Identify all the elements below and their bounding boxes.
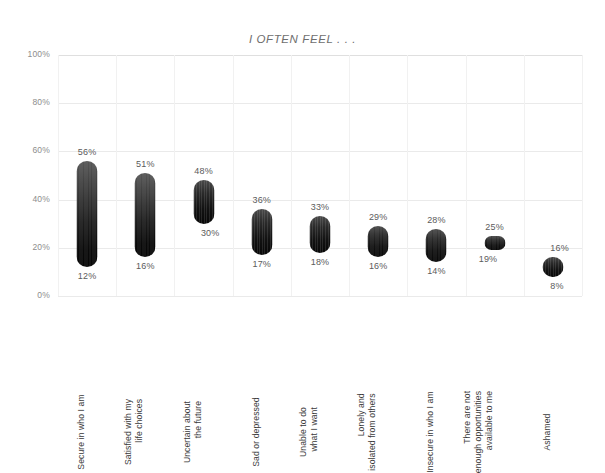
gridline-horizontal [58, 296, 582, 297]
y-axis-tick-label: 0% [0, 290, 50, 300]
bar-group[interactable]: 29%16% [349, 55, 407, 296]
y-axis-tick-label: 100% [0, 49, 50, 59]
x-axis-label-line: Unable to do [298, 407, 309, 457]
x-axis-label-slot: Lonely andisolated from others [349, 300, 407, 436]
gridline-vertical [582, 55, 583, 296]
y-axis-tick-label: 20% [0, 242, 50, 252]
x-axis-label-line: Insecure in who I am [425, 391, 436, 472]
x-axis-label-slot: Uncertain aboutthe future [174, 300, 232, 436]
x-axis-category-label: Unable to dowhat I want [298, 407, 320, 457]
y-axis-tick-label: 40% [0, 194, 50, 204]
x-axis-label-line: There are not [462, 391, 473, 473]
bar-group[interactable]: 33%18% [291, 55, 349, 296]
plot-area: 56%12%51%16%48%30%36%17%33%18%29%16%28%1… [58, 55, 582, 296]
bar-value-label-low: 12% [55, 271, 119, 281]
x-axis-category-label: Lonely andisolated from others [356, 393, 378, 470]
x-axis-label-slot: Satisfied with mylife choices [116, 300, 174, 436]
x-axis-category-label: Insecure in who I am [425, 391, 436, 472]
x-axis-label-line: Uncertain about [182, 401, 193, 463]
range-bar[interactable] [251, 209, 272, 255]
bar-value-label-high: 25% [463, 222, 527, 232]
bar-group[interactable]: 48%30% [174, 55, 232, 296]
x-axis-label-slot: Insecure in who I am [407, 300, 465, 436]
bar-group[interactable]: 25%19% [466, 55, 524, 296]
x-axis-label-line: what I want [309, 407, 320, 457]
bar-group[interactable]: 56%12% [58, 55, 116, 296]
bar-group[interactable]: 16%8% [524, 55, 582, 296]
x-axis-label-slot: Unable to dowhat I want [291, 300, 349, 436]
x-axis-label-line: Sad or depressed [251, 397, 262, 466]
x-axis-label-slot: Ashamed [524, 300, 582, 436]
y-axis-tick-label: 60% [0, 145, 50, 155]
bar-value-label-low: 18% [288, 257, 352, 267]
x-axis-category-label: Satisfied with mylife choices [123, 399, 145, 465]
bar-value-label-low: 19% [453, 254, 497, 264]
bar-group[interactable]: 36%17% [233, 55, 291, 296]
range-bar[interactable] [135, 173, 156, 257]
bar-value-label-high: 28% [404, 215, 468, 225]
bar-value-label-low: 17% [230, 259, 294, 269]
x-axis-category-label: Sad or depressed [251, 397, 262, 466]
x-axis-label-line: life choices [134, 399, 145, 465]
bar-value-label-high: 36% [230, 195, 294, 205]
range-bar[interactable] [309, 216, 330, 252]
range-bar[interactable] [542, 257, 563, 276]
x-axis-label-slot: Sad or depressed [233, 300, 291, 436]
bar-value-label-high: 56% [55, 147, 119, 157]
bar-value-label-high: 16% [550, 243, 594, 253]
x-axis-label-line: isolated from others [367, 393, 378, 470]
x-axis-label-slot: There are notenough opportunitiesavailab… [466, 300, 524, 436]
bar-value-label-low: 16% [113, 261, 177, 271]
x-axis-label-line: the future [193, 401, 204, 463]
range-bar[interactable] [484, 236, 505, 250]
x-axis-category-label: Secure in who I am [76, 394, 87, 469]
x-axis-category-label: There are notenough opportunitiesavailab… [462, 391, 495, 473]
x-axis-label-line: Ashamed [542, 413, 553, 450]
range-bar[interactable] [368, 226, 389, 257]
bar-value-label-high: 51% [113, 159, 177, 169]
x-axis-label-line: enough opportunities [473, 391, 484, 473]
x-axis-label-line: Satisfied with my [123, 399, 134, 465]
chart-title: I OFTEN FEEL . . . [0, 33, 605, 45]
bar-value-label-high: 48% [172, 166, 236, 176]
x-axis-label-line: available to me [484, 391, 495, 473]
bar-value-label-low: 16% [346, 261, 410, 271]
range-bar[interactable] [426, 229, 447, 263]
bar-value-label-high: 29% [346, 212, 410, 222]
bar-value-label-low: 8% [550, 281, 594, 291]
x-axis-category-label: Ashamed [542, 413, 553, 450]
range-bar[interactable] [77, 161, 98, 267]
bar-value-label-high: 33% [288, 202, 352, 212]
bar-value-label-low: 14% [404, 266, 468, 276]
x-axis-labels: Secure in who I amSatisfied with mylife … [58, 300, 582, 436]
bar-group[interactable]: 51%16% [116, 55, 174, 296]
y-axis-tick-label: 80% [0, 97, 50, 107]
x-axis-category-label: Uncertain aboutthe future [182, 401, 204, 463]
x-axis-label-slot: Secure in who I am [58, 300, 116, 436]
range-bar[interactable] [193, 180, 214, 223]
x-axis-label-line: Secure in who I am [76, 394, 87, 469]
x-axis-label-line: Lonely and [356, 393, 367, 470]
